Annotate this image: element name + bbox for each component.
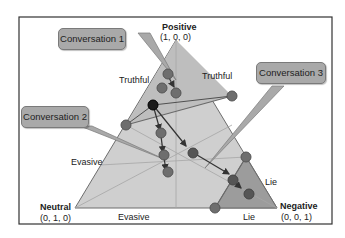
- point: [244, 189, 254, 199]
- point: [157, 83, 167, 93]
- callout-conversation-1: Conversation 1: [58, 28, 126, 50]
- vertex-negative-coords: (0, 0, 1): [281, 212, 312, 223]
- region-label-evasive-left: Evasive: [71, 157, 103, 168]
- point: [241, 152, 251, 162]
- point-dark: [148, 100, 158, 110]
- point: [156, 128, 166, 138]
- point: [228, 175, 238, 185]
- point: [188, 148, 198, 158]
- region-label-lie-right: Lie: [265, 177, 277, 188]
- point: [210, 203, 220, 213]
- point: [171, 88, 181, 98]
- region-label-truthful-right: Truthful: [202, 71, 232, 82]
- vertex-neutral-coords: (0, 1, 0): [40, 213, 71, 224]
- point: [227, 91, 237, 101]
- vertex-positive-coords: (1, 0, 0): [160, 32, 191, 43]
- callout-conversation-3: Conversation 3: [256, 62, 326, 84]
- point: [163, 69, 173, 79]
- vertex-neutral-label: Neutral: [40, 202, 71, 213]
- region-label-lie-bottom: Lie: [243, 212, 255, 223]
- point: [159, 150, 169, 160]
- vertex-negative-label: Negative: [280, 201, 318, 212]
- region-label-evasive-bottom: Evasive: [118, 212, 150, 223]
- point: [163, 167, 173, 177]
- callout-conversation-2: Conversation 2: [21, 106, 89, 128]
- region-label-truthful-left: Truthful: [119, 75, 149, 86]
- point: [121, 120, 131, 130]
